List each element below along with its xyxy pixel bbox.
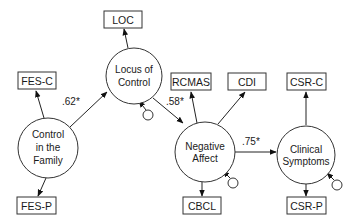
edge-family-to-fes-p xyxy=(38,178,46,196)
latent-label-line: Family xyxy=(33,155,62,166)
latent-label-line: Negative xyxy=(185,141,225,152)
indicator-csr-p: CSR-P xyxy=(287,197,326,214)
latent-label-line: Control xyxy=(118,77,150,88)
indicator-label: FES-C xyxy=(21,75,53,87)
disturbance-clinical-symptoms xyxy=(332,180,342,190)
latent-label-line: Clinical xyxy=(290,144,322,155)
disturbance-negative-affect xyxy=(228,178,238,188)
indicator-label: LOC xyxy=(112,14,134,26)
latent-label-line: Control xyxy=(32,129,64,140)
latent-locus-of-control: Locus of Control xyxy=(106,48,162,104)
indicator-label: FES-P xyxy=(21,200,52,212)
coefficient-negative-clinical: .75* xyxy=(242,136,260,147)
latent-label-line: Affect xyxy=(192,153,218,164)
indicator-label: CBCL xyxy=(188,200,216,212)
indicator-fes-p: FES-P xyxy=(17,197,56,214)
indicator-fes-c: FES-C xyxy=(18,72,56,89)
indicator-label: CDI xyxy=(238,76,256,88)
indicator-rcmas: RCMAS xyxy=(171,73,211,90)
latent-label-line: Locus of xyxy=(115,64,153,75)
edge-family-to-fes-c xyxy=(36,91,44,118)
indicator-label: CSR-C xyxy=(290,76,324,88)
latent-clinical-symptoms: Clinical Symptoms xyxy=(277,126,335,184)
indicator-cbcl: CBCL xyxy=(183,197,221,214)
edge-negative-to-cdi xyxy=(218,92,245,124)
latent-label-line: Symptoms xyxy=(282,156,329,167)
disturbance-locus-of-control xyxy=(143,110,153,120)
latent-negative-affect: Negative Affect xyxy=(175,122,235,182)
coefficient-family-locus: .62* xyxy=(62,96,80,107)
coefficient-locus-negative: .58* xyxy=(166,96,184,107)
indicator-label: RCMAS xyxy=(172,76,210,88)
edge-locus-to-loc xyxy=(124,29,128,48)
indicator-loc: LOC xyxy=(104,11,142,28)
indicator-cdi: CDI xyxy=(228,73,266,90)
latent-label-line: in the xyxy=(36,142,61,153)
edge-negative-to-rcmas xyxy=(191,92,197,123)
latent-control-in-the-family: Control in the Family xyxy=(18,118,78,178)
indicator-csr-c: CSR-C xyxy=(287,73,326,90)
sem-path-diagram: .62* .58* .75* Control in the Family Loc… xyxy=(0,0,354,221)
indicator-label: CSR-P xyxy=(290,200,323,212)
